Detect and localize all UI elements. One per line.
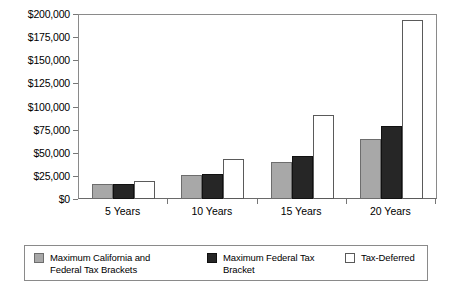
y-axis-tick-label: $50,000 (0, 148, 70, 158)
x-axis-tick-label: 10 Years (167, 205, 256, 217)
legend-item-california-federal: Maximum California andFederal Tax Bracke… (34, 252, 194, 276)
bars-layer (79, 15, 436, 199)
legend-label-line1: Tax-Deferred (361, 252, 415, 263)
y-axis-tick-label: $75,000 (0, 125, 70, 135)
bar (271, 162, 292, 199)
bar (292, 156, 313, 199)
y-axis-tick-label: $125,000 (0, 78, 70, 88)
legend-label-line1: Maximum California and (50, 252, 150, 263)
bar (92, 184, 113, 199)
legend-item-label: Maximum Federal TaxBracket (223, 252, 314, 276)
x-axis-tick-mark (257, 199, 258, 204)
x-axis-tick-label: 5 Years (78, 205, 167, 217)
legend-item-label: Tax-Deferred (361, 252, 415, 264)
legend-item-tax-deferred: Tax-Deferred (345, 252, 435, 264)
bar (381, 126, 402, 199)
x-axis-tick-label: 20 Years (346, 205, 435, 217)
bar-group (168, 15, 257, 199)
y-axis-tick-label: $175,000 (0, 32, 70, 42)
y-axis-tick-label: $200,000 (0, 9, 70, 19)
bar (402, 20, 423, 199)
bar-group (79, 15, 168, 199)
legend-item-federal: Maximum Federal TaxBracket (207, 252, 342, 276)
y-axis-tick-label: $25,000 (0, 171, 70, 181)
x-axis-tick-mark (346, 199, 347, 204)
x-axis-tick-marks (78, 199, 437, 204)
bar-group (347, 15, 436, 199)
plot-wrapper: $200,000$175,000$150,000$125,000$100,000… (0, 0, 453, 232)
legend-label-line1: Maximum Federal Tax (223, 252, 314, 263)
y-axis-tick-label: $0 (0, 194, 70, 204)
bar (181, 175, 202, 199)
bar-chart: $200,000$175,000$150,000$125,000$100,000… (0, 0, 453, 291)
gray-swatch-icon (34, 253, 44, 263)
white-swatch-icon (345, 253, 355, 263)
x-axis-tick-labels: 5 Years10 Years15 Years20 Years (78, 205, 437, 221)
legend-label-line2: Federal Tax Brackets (50, 264, 137, 275)
black-swatch-icon (207, 253, 217, 263)
x-axis-tick-mark (167, 199, 168, 204)
x-axis-tick-label: 15 Years (257, 205, 346, 217)
bar (202, 174, 223, 199)
legend-label-line2: Bracket (223, 264, 255, 275)
y-axis-tick-label: $150,000 (0, 55, 70, 65)
bar (313, 115, 334, 199)
chart-legend: Maximum California andFederal Tax Bracke… (24, 245, 428, 281)
bar (223, 159, 244, 199)
y-axis-tick-labels: $200,000$175,000$150,000$125,000$100,000… (0, 14, 70, 199)
bar-group (258, 15, 347, 199)
x-axis-tick-mark (435, 199, 436, 204)
y-axis-tick-label: $100,000 (0, 102, 70, 112)
bar (134, 181, 155, 200)
bar (360, 139, 381, 199)
legend-item-label: Maximum California andFederal Tax Bracke… (50, 252, 150, 276)
bar (113, 184, 134, 199)
